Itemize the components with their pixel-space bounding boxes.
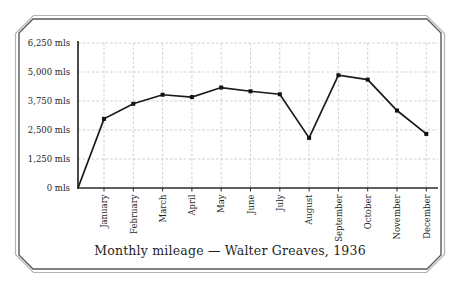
y-tick-label: 1,250 mls: [28, 154, 70, 164]
data-point-september: [336, 73, 340, 77]
data-point-march: [161, 93, 165, 97]
x-tick-label-june: June: [246, 195, 256, 215]
data-point-october: [366, 78, 370, 82]
x-tick-label-august: August: [304, 194, 314, 226]
data-point-january: [102, 117, 106, 121]
x-tick-label-march: March: [158, 194, 168, 223]
data-point-december: [424, 132, 428, 136]
x-tick-label-february: February: [129, 194, 139, 234]
framed-mileage-chart: 0 mls1,250 mls2,500 mls3,750 mls5,000 ml…: [0, 0, 459, 286]
data-point-august: [307, 136, 311, 140]
data-point-may: [219, 86, 223, 90]
x-tick-label-may: May: [216, 194, 226, 213]
x-tick-label-january: January: [99, 194, 109, 229]
chart-title: Monthly mileage — Walter Greaves, 1936: [18, 243, 442, 258]
x-tick-label-april: April: [187, 194, 197, 216]
x-tick-label-october: October: [363, 194, 373, 230]
data-point-february: [131, 102, 135, 106]
y-tick-label: 5,000 mls: [28, 67, 70, 77]
y-tick-label: 6,250 mls: [28, 38, 70, 48]
frame-outer-border: [16, 16, 445, 273]
y-tick-label: 3,750 mls: [28, 96, 70, 106]
x-tick-label-september: September: [334, 194, 344, 242]
data-point-july: [278, 92, 282, 96]
x-tick-label-july: July: [275, 194, 285, 212]
y-tick-label: 2,500 mls: [28, 125, 70, 135]
frame-inner-border: [19, 19, 441, 269]
data-point-april: [190, 95, 194, 99]
x-tick-label-november: November: [392, 194, 402, 240]
data-point-november: [395, 109, 399, 113]
data-point-june: [249, 89, 253, 93]
x-tick-label-december: December: [422, 194, 432, 239]
y-tick-label: 0 mls: [47, 183, 70, 193]
